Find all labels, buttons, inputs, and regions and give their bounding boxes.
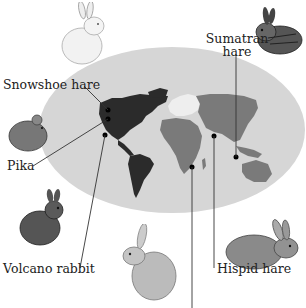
label-volcano-rabbit: Volcano rabbit (3, 262, 95, 275)
african-hare-illustration (118, 224, 180, 306)
label-snowshoe-hare: Snowshoe hare (3, 78, 100, 91)
pika-illustration (4, 112, 54, 154)
label-sumatran-hare-line2: hare (197, 45, 277, 58)
label-pika: Pika (7, 159, 34, 172)
label-hispid-hare: Hispid hare (217, 262, 291, 275)
snowshoe-hare-illustration (52, 2, 112, 68)
volcano-rabbit-illustration (14, 188, 66, 248)
label-sumatran-hare: Sumatran hare (197, 32, 277, 58)
